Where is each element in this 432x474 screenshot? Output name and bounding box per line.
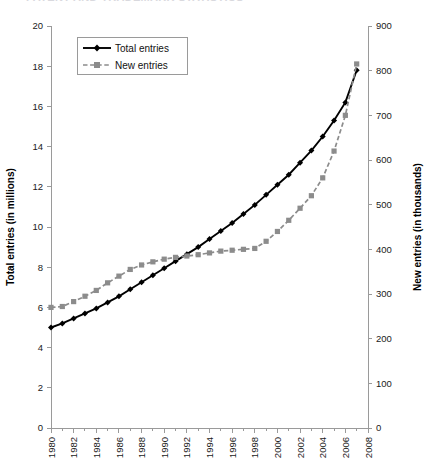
x-axis-tick-label: 1982	[68, 437, 79, 458]
x-axis-tick-label: 1994	[204, 437, 215, 458]
x-axis-tick-label: 2000	[272, 437, 283, 458]
cut-off-header: PATENT AND TRADEMARK STATISTICS	[0, 0, 432, 7]
x-axis-tick-label: 2002	[295, 437, 306, 458]
data-point-marker	[343, 113, 348, 118]
left-axis-tick-label: 18	[32, 61, 43, 72]
data-point-marker	[162, 257, 167, 262]
x-axis-tick-label: 1998	[249, 437, 260, 458]
data-point-marker	[71, 299, 76, 304]
legend-label-0: Total entries	[115, 43, 169, 54]
data-point-marker	[196, 252, 201, 257]
x-axis-tick-label: 1990	[159, 437, 170, 458]
right-axis: 0100200300400500600700800900	[368, 20, 392, 433]
data-point-marker	[275, 229, 280, 234]
right-axis-tick-label: 900	[376, 20, 392, 31]
left-axis-tick-label: 0	[38, 422, 43, 433]
right-axis-tick-label: 0	[376, 422, 381, 433]
left-axis-tick-label: 4	[38, 342, 43, 353]
right-axis-tick-label: 200	[376, 333, 392, 344]
left-axis-tick-label: 10	[32, 221, 43, 232]
right-axis-tick-label: 100	[376, 378, 392, 389]
data-point-marker	[48, 325, 54, 331]
data-point-marker	[116, 274, 121, 279]
data-point-marker	[331, 148, 336, 153]
x-axis-tick-label: 1992	[181, 437, 192, 458]
data-point-marker	[139, 262, 144, 267]
legend-swatch-marker-1	[94, 62, 100, 68]
x-axis-tick-label: 2006	[340, 437, 351, 458]
data-point-marker	[241, 247, 246, 252]
data-point-marker	[48, 305, 53, 310]
series-line-new-entries	[51, 64, 357, 307]
line-chart-canvas: 02468101214161820 0100200300400500600700…	[0, 0, 432, 474]
left-axis-tick-label: 16	[32, 101, 43, 112]
data-point-marker	[128, 267, 133, 272]
right-axis-tick-label: 400	[376, 244, 392, 255]
left-axis-title: Total entries (in millions)	[5, 168, 16, 286]
data-point-marker	[286, 218, 291, 223]
data-point-marker	[59, 320, 65, 326]
data-point-marker	[230, 248, 235, 253]
data-point-marker	[320, 175, 325, 180]
cut-off-header-text: PATENT AND TRADEMARK STATISTICS	[26, 0, 244, 3]
right-axis-tick-label: 600	[376, 154, 392, 165]
data-point-marker	[264, 239, 269, 244]
left-axis-tick-label: 20	[32, 20, 43, 31]
legend-label-1: New entries	[115, 60, 168, 71]
right-axis-tick-label: 800	[376, 65, 392, 76]
right-axis-tick-label: 300	[376, 288, 392, 299]
data-point-marker	[173, 255, 178, 260]
x-axis-tick-label: 1986	[114, 437, 125, 458]
data-point-marker	[150, 259, 155, 264]
right-axis-tick-label: 700	[376, 110, 392, 121]
right-axis-tick-label: 500	[376, 199, 392, 210]
data-point-marker	[94, 288, 99, 293]
left-axis-tick-label: 8	[38, 262, 43, 273]
left-axis-tick-label: 14	[32, 141, 43, 152]
data-point-marker	[207, 250, 212, 255]
data-point-marker	[309, 193, 314, 198]
data-point-marker	[60, 304, 65, 309]
x-axis: 1980198219841986198819901992199419961998…	[46, 428, 374, 458]
data-point-marker	[105, 280, 110, 285]
chart-legend[interactable]: Total entriesNew entries	[77, 37, 187, 74]
left-axis-tick-label: 2	[38, 382, 43, 393]
chart-figure: PATENT AND TRADEMARK STATISTICS 02468101…	[0, 0, 432, 474]
x-axis-tick-label: 1988	[136, 437, 147, 458]
x-axis-tick-label: 1996	[227, 437, 238, 458]
left-axis-tick-label: 12	[32, 181, 43, 192]
right-axis-title: New entries (in thousands)	[412, 163, 423, 291]
data-point-marker	[354, 61, 359, 66]
x-axis-tick-label: 1980	[46, 437, 57, 458]
x-axis-tick-label: 1984	[91, 437, 102, 458]
data-point-marker	[218, 249, 223, 254]
data-point-marker	[297, 206, 302, 211]
data-point-marker	[184, 253, 189, 258]
x-axis-tick-label: 2004	[317, 437, 328, 458]
x-axis-tick-label: 2008	[363, 437, 374, 458]
data-series-group	[48, 61, 360, 330]
data-point-marker	[82, 310, 88, 316]
left-axis-tick-label: 6	[38, 302, 43, 313]
data-point-marker	[71, 315, 77, 321]
left-axis: 02468101214161820	[32, 20, 51, 433]
data-point-marker	[252, 246, 257, 251]
data-point-marker	[82, 294, 87, 299]
